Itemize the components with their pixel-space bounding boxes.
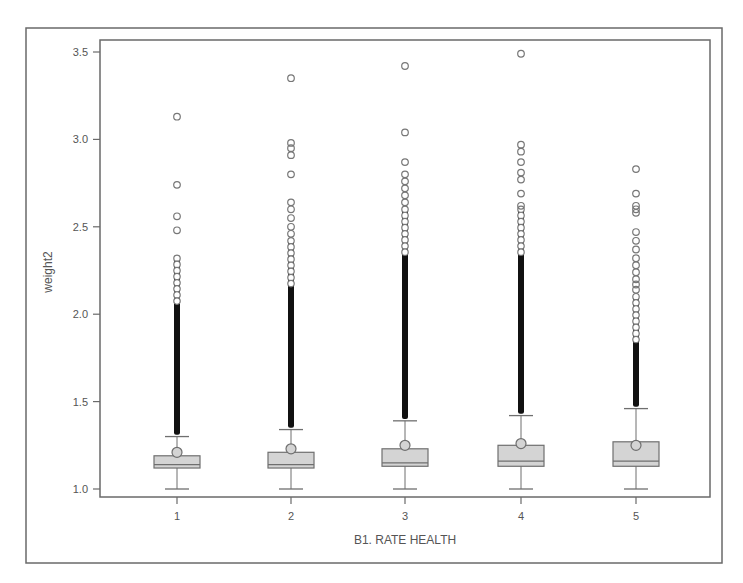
x-tick-label: 4 [518, 510, 524, 522]
iqr-box [382, 449, 428, 466]
y-tick-label: 1.0 [73, 483, 88, 495]
outlier-point [288, 262, 294, 268]
outlier-point [402, 224, 408, 230]
outlier-point [633, 294, 639, 300]
outlier-point [174, 298, 180, 304]
outlier-point [518, 249, 524, 255]
outlier-point [288, 268, 294, 274]
outlier-point [174, 267, 180, 273]
outlier-point [402, 243, 408, 249]
x-tick-label: 5 [633, 510, 639, 522]
x-tick-label: 2 [288, 510, 294, 522]
outlier-point [174, 286, 180, 292]
mean-marker [631, 440, 641, 450]
outlier-point [288, 256, 294, 262]
y-axis: 1.01.52.02.53.03.5 [73, 46, 100, 495]
outlier-point [288, 274, 294, 280]
outlier-point [518, 231, 524, 237]
outlier-point [633, 324, 639, 330]
outlier-point [633, 300, 639, 306]
outlier-point [174, 273, 180, 279]
outlier-point [402, 249, 408, 255]
outlier-point [288, 238, 294, 244]
outlier-point [402, 237, 408, 243]
mean-marker [516, 439, 526, 449]
outlier-point [174, 292, 180, 298]
mean-marker [400, 440, 410, 450]
x-tick-label: 1 [174, 510, 180, 522]
y-tick-label: 1.5 [73, 396, 88, 408]
outlier-point [174, 280, 180, 286]
outlier-point [402, 231, 408, 237]
mean-marker [172, 447, 182, 457]
outlier-point [288, 250, 294, 256]
outlier-point [518, 243, 524, 249]
outlier-point [633, 312, 639, 318]
outlier-point [518, 212, 524, 218]
outlier-point [402, 206, 408, 212]
outlier-point [633, 336, 639, 342]
mean-marker [286, 444, 296, 454]
outlier-point [174, 255, 180, 261]
outlier-point [288, 280, 294, 286]
outlier-point [288, 244, 294, 250]
outlier-point [518, 224, 524, 230]
outlier-point [633, 318, 639, 324]
y-tick-label: 2.5 [73, 221, 88, 233]
y-tick-label: 3.5 [73, 46, 88, 58]
y-axis-title: weight2 [41, 251, 55, 294]
outlier-point [518, 237, 524, 243]
outlier-point [518, 218, 524, 224]
x-axis-title: B1. RATE HEALTH [354, 533, 456, 547]
x-tick-label: 3 [402, 510, 408, 522]
outlier-point [402, 212, 408, 218]
x-axis: 12345 [174, 497, 639, 522]
box-plot-chart: 1.01.52.02.53.03.5 12345 weight2 B1. RAT… [0, 0, 743, 583]
outlier-point [402, 218, 408, 224]
outlier-point [633, 306, 639, 312]
outlier-point [174, 261, 180, 267]
iqr-box [268, 452, 314, 468]
y-tick-label: 2.0 [73, 308, 88, 320]
outlier-point [633, 330, 639, 336]
y-tick-label: 3.0 [73, 133, 88, 145]
